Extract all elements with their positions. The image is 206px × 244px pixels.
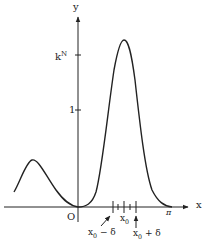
origin-label: O [67, 212, 75, 222]
x0p-suffix: + δ [142, 228, 161, 238]
x0-minus-delta-label: x0 − δ [88, 228, 116, 239]
x0m-suffix: − δ [97, 227, 116, 237]
x0-label: x0 [120, 214, 129, 225]
diagram-canvas [0, 0, 206, 244]
x0-plus-delta-label: x0 + δ [133, 229, 161, 240]
x-axis-label: x [196, 200, 202, 210]
y-tick-label-1: 1 [69, 105, 75, 115]
function-curve [14, 40, 172, 207]
pointer-arrow-x0-minus-delta [101, 216, 110, 226]
y-tick-label-kN: kN [55, 51, 67, 62]
x0-sub: 0 [125, 218, 129, 225]
pi-label: π [166, 209, 171, 217]
y-axis-label: y [73, 2, 79, 12]
kN-exponent: N [61, 50, 67, 58]
